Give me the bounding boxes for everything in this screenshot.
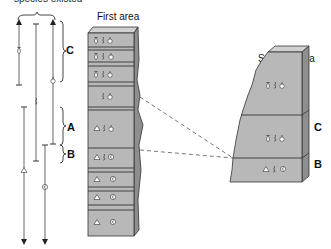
brace-b (60, 145, 66, 163)
species-5-icon (42, 184, 47, 189)
correlation-diagram (0, 0, 331, 249)
brace-c (60, 21, 66, 82)
second-area-column (230, 46, 309, 182)
species-4-icon (21, 168, 27, 173)
top-brace (18, 12, 55, 20)
range-chart (16, 12, 66, 242)
correlation-lines (140, 97, 233, 158)
species-3-icon (51, 77, 55, 83)
brace-a (60, 107, 66, 145)
species-1-icon (17, 48, 20, 54)
first-area-column (88, 27, 143, 236)
